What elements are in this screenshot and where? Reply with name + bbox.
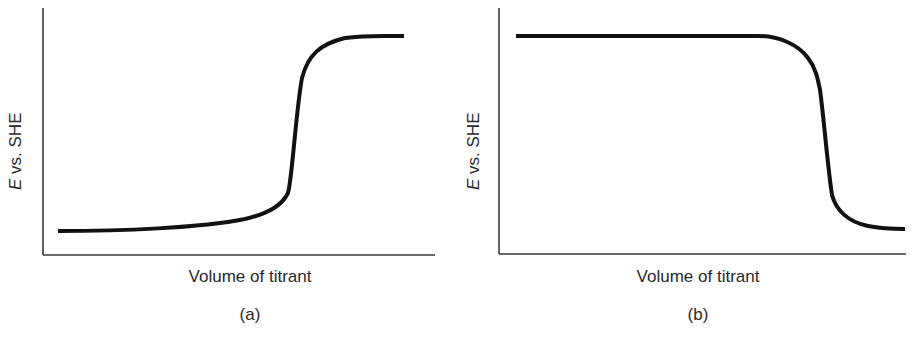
y-label-variable-b: E: [464, 179, 483, 190]
plot-area-a: [0, 0, 458, 340]
chart-panel-b: E vs. SHE Volume of titrant (b): [458, 0, 917, 340]
y-axis-label-a: E vs. SHE: [6, 113, 26, 190]
chart-panel-a: E vs. SHE Volume of titrant (a): [0, 0, 458, 340]
y-label-variable-a: E: [6, 179, 25, 190]
x-axis-label-a: Volume of titrant: [150, 267, 350, 287]
titration-curve-b: [516, 36, 905, 229]
y-label-text-a: vs. SHE: [6, 113, 25, 179]
caption-b: (b): [658, 305, 738, 325]
caption-a: (a): [210, 305, 290, 325]
plot-area-b: [458, 0, 917, 340]
titration-curve-a: [58, 36, 404, 231]
y-axis-label-b: E vs. SHE: [464, 113, 484, 190]
y-label-text-b: vs. SHE: [464, 113, 483, 179]
x-axis-label-b: Volume of titrant: [598, 267, 798, 287]
